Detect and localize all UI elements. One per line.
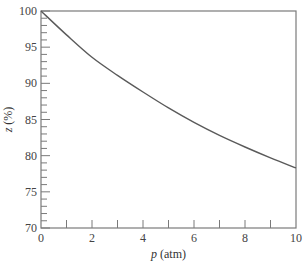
y-tick-label: 95 — [25, 40, 37, 54]
y-axis-label: z (%) — [1, 107, 15, 134]
x-axis: 0246810 — [38, 220, 302, 245]
y-tick-label: 75 — [25, 185, 37, 199]
x-tick-label: 8 — [242, 231, 248, 245]
chart: 707580859095100 0246810 p (atm) z (%) — [0, 0, 306, 261]
y-tick-label: 80 — [25, 149, 37, 163]
y-tick-label: 70 — [25, 221, 37, 235]
x-tick-label: 2 — [89, 231, 95, 245]
y-axis: 707580859095100 — [19, 4, 50, 235]
y-tick-label: 85 — [25, 113, 37, 127]
x-tick-label: 4 — [140, 231, 146, 245]
plot-frame — [41, 11, 296, 228]
x-axis-label: p (atm) — [150, 247, 186, 261]
plot-border — [41, 11, 296, 228]
x-tick-label: 10 — [290, 231, 302, 245]
x-tick-label: 6 — [191, 231, 197, 245]
y-tick-label: 90 — [25, 76, 37, 90]
x-tick-label: 0 — [38, 231, 44, 245]
y-tick-label: 100 — [19, 4, 37, 18]
data-line — [41, 11, 296, 168]
